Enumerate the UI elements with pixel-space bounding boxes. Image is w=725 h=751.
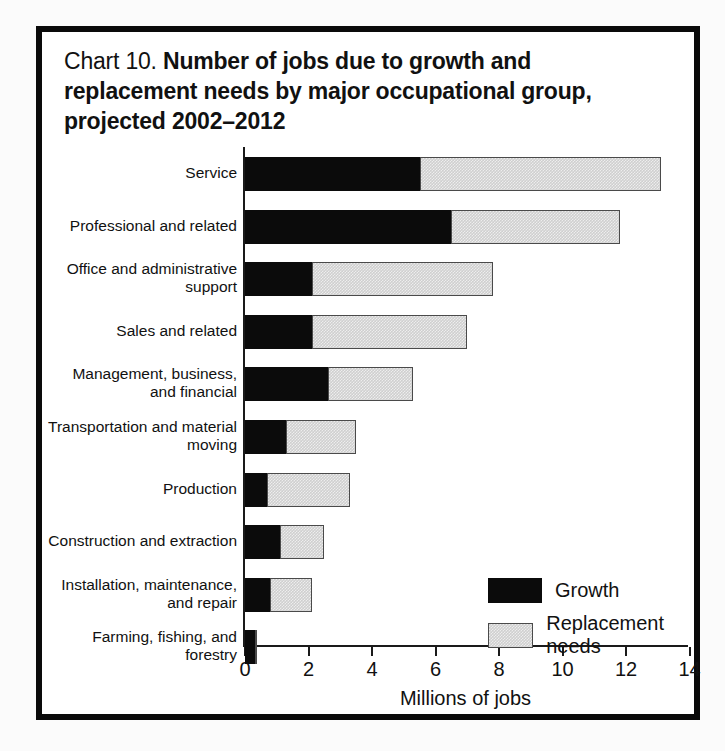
- legend-label-growth: Growth: [555, 579, 619, 602]
- bar-row: Transportation and materialmoving: [42, 414, 694, 460]
- legend-item-growth: Growth: [488, 578, 694, 603]
- bar-segment-growth: [245, 315, 312, 349]
- chart-legend: Growth Replacement needs: [488, 578, 694, 667]
- bar-segment-replacement: [420, 157, 661, 191]
- category-label: Sales and related: [27, 322, 237, 340]
- bar-segment-growth: [245, 367, 328, 401]
- bar-row: Office and administrativesupport: [42, 256, 694, 302]
- bar-segment-replacement: [267, 473, 350, 507]
- bar-segment-replacement: [328, 367, 414, 401]
- bar-segment-replacement: [451, 210, 619, 244]
- bar-segment-replacement: [280, 525, 324, 559]
- bar-row: Management, business,and financial: [42, 361, 694, 407]
- plot-area: 02468101214 ServiceProfessional and rela…: [42, 32, 694, 714]
- bar-segment-growth: [245, 473, 267, 507]
- bar-row: Production: [42, 467, 694, 513]
- bar-segment-growth: [245, 420, 286, 454]
- bar-segment-replacement: [270, 578, 311, 612]
- category-label: Installation, maintenance,and repair: [27, 576, 237, 612]
- bar-segment-growth: [245, 262, 312, 296]
- bar-segment-replacement: [286, 420, 356, 454]
- bar-segment-growth: [245, 630, 255, 664]
- category-label: Transportation and materialmoving: [27, 418, 237, 454]
- legend-label-replacement: Replacement needs: [546, 612, 694, 658]
- legend-swatch-growth: [488, 578, 542, 603]
- legend-item-replacement: Replacement needs: [488, 612, 694, 658]
- category-label: Professional and related: [27, 217, 237, 235]
- bar-segment-growth: [245, 210, 451, 244]
- chart-canvas: Chart 10. Number of jobs due to growth a…: [42, 32, 694, 714]
- bar-segment-growth: [245, 157, 420, 191]
- x-axis-title: Millions of jobs: [243, 687, 688, 710]
- bar-row: Service: [42, 151, 694, 197]
- category-label: Service: [27, 164, 237, 182]
- bar-segment-replacement: [255, 630, 257, 664]
- category-label: Construction and extraction: [27, 532, 237, 550]
- category-label: Farming, fishing, andforestry: [27, 628, 237, 664]
- category-label: Management, business,and financial: [27, 365, 237, 401]
- legend-swatch-replacement: [488, 623, 533, 648]
- bar-row: Construction and extraction: [42, 519, 694, 565]
- chart-frame: Chart 10. Number of jobs due to growth a…: [36, 26, 700, 720]
- bar-segment-replacement: [312, 315, 468, 349]
- bar-row: Professional and related: [42, 204, 694, 250]
- category-label: Production: [27, 480, 237, 498]
- bar-segment-replacement: [312, 262, 493, 296]
- category-label: Office and administrativesupport: [27, 260, 237, 296]
- bar-row: Sales and related: [42, 309, 694, 355]
- bar-segment-growth: [245, 525, 280, 559]
- chart-page: Chart 10. Number of jobs due to growth a…: [0, 0, 725, 751]
- bar-segment-growth: [245, 578, 270, 612]
